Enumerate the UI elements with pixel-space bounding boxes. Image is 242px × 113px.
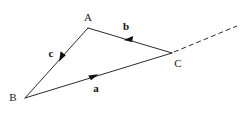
vector-triangle-svg: A B C a b c xyxy=(0,0,242,113)
vertex-label-a: A xyxy=(84,11,92,23)
arrow-head-vector-c xyxy=(59,51,66,61)
vertex-label-c: C xyxy=(174,57,181,69)
extension-ray-dashed xyxy=(174,26,237,52)
arrow-head-vector-a xyxy=(88,74,98,80)
edge-a-to-b xyxy=(25,28,88,98)
vector-label-b: b xyxy=(123,20,129,32)
vector-label-a: a xyxy=(93,82,99,94)
vector-diagram-figure: A B C a b c xyxy=(0,0,242,113)
vector-label-c: c xyxy=(49,47,54,59)
vertex-label-b: B xyxy=(9,91,16,103)
